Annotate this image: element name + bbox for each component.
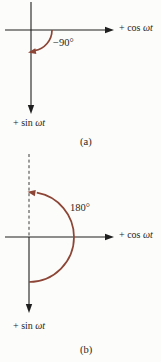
a-cos-axis-label: + cos ωt (119, 22, 153, 33)
a-sin-prefix: + sin (13, 117, 35, 128)
a-rotation-arrowhead-icon (28, 48, 36, 54)
a-down-arrowhead-icon (28, 105, 34, 114)
b-caption: (b) (80, 344, 92, 355)
b-sin-variable: ωt (35, 320, 45, 331)
a-cos-prefix: + cos (119, 22, 143, 33)
a-angle-label: −90° (53, 37, 74, 48)
b-sin-axis-label: + sin ωt (13, 320, 45, 331)
a-sin-variable: ωt (35, 117, 45, 128)
figure-canvas (0, 0, 161, 362)
a-rotation-arc (35, 30, 52, 51)
a-right-arrowhead-icon (105, 27, 114, 33)
b-cos-axis-label: + cos ωt (119, 229, 153, 240)
b-sin-prefix: + sin (13, 320, 35, 331)
a-sin-axis-label: + sin ωt (13, 117, 45, 128)
a-cos-variable: ωt (143, 22, 153, 33)
b-down-arrowhead-icon (26, 304, 32, 313)
a-caption: (a) (80, 136, 92, 147)
b-cos-prefix: + cos (119, 229, 143, 240)
phasor-rotation-figure: −90° + cos ωt + sin ωt (a) 180° + cos ωt… (0, 0, 161, 362)
b-cos-variable: ωt (143, 229, 153, 240)
b-angle-label: 180° (70, 202, 90, 213)
b-right-arrowhead-icon (105, 234, 114, 240)
